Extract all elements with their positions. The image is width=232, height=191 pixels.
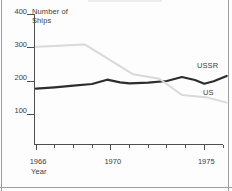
- series-line-ussr: [36, 76, 227, 89]
- series-label-ussr: USSR: [197, 61, 218, 70]
- series-line-us: [36, 44, 227, 102]
- y-tick-label: 100: [0, 107, 27, 115]
- y-tick-label: 300: [0, 41, 27, 49]
- x-tick-label: 1966: [23, 158, 53, 166]
- y-tick-label: 400: [0, 8, 27, 16]
- y-tick-label: 200: [0, 74, 27, 82]
- ships-line-chart: Number of Ships Year USSR US 10020030040…: [0, 0, 232, 191]
- x-tick-label: 1970: [98, 158, 128, 166]
- x-axis-title: Year: [31, 167, 47, 176]
- x-tick-label: 1975: [191, 158, 221, 166]
- series-label-us: US: [203, 88, 214, 97]
- y-axis-title: Number of Ships: [32, 7, 76, 25]
